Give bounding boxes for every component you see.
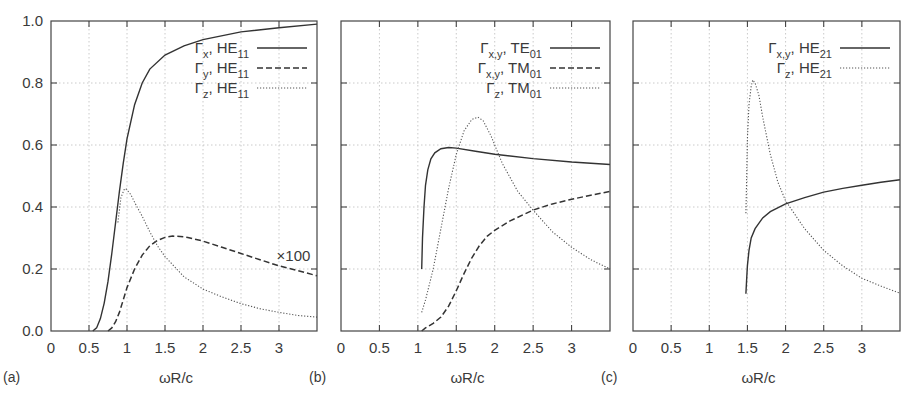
annotation-scale-factor: ×100 [277,247,311,264]
plot-frame [633,21,900,331]
y-tick-label: 0.6 [22,136,43,153]
x-tick-label: 1 [705,339,713,356]
y-tick-label: 0.8 [22,74,43,91]
x-tick-label: 2.5 [231,339,252,356]
x-tick-label: 1.5 [737,339,758,356]
panel-label: (b) [309,369,326,385]
panel-a: 00.511.522.530.00.20.40.60.81.0(a)ωR/cΓx… [3,12,317,386]
series-line-dotted [746,80,900,293]
y-tick-label: 0.4 [22,198,43,215]
x-tick-label: 2.5 [523,339,544,356]
x-tick-label: 1.5 [155,339,176,356]
x-tick-label: 0 [629,339,637,356]
figure: 00.511.522.530.00.20.40.60.81.0(a)ωR/cΓx… [0,0,914,396]
x-tick-label: 0.5 [79,339,100,356]
x-tick-label: 3 [858,339,866,356]
series-line-solid [422,148,610,270]
x-tick-label: 2.5 [813,339,834,356]
x-axis-label: ωR/c [450,369,485,386]
x-tick-label: 3 [275,339,283,356]
panel-b: 00.511.522.53(b)ωR/cΓx,y, TE01Γx,y, TM01… [309,21,610,386]
x-tick-label: 0.5 [369,339,390,356]
series-line-dotted [422,117,610,312]
x-tick-label: 1.5 [446,339,467,356]
panel-label: (a) [3,369,20,385]
y-tick-label: 1.0 [22,12,43,29]
panel-c: 00.511.522.53(c)ωR/cΓx,y, HE21Γz, HE21 [601,21,900,386]
legend-entry: Γx,y, HE21 [768,39,832,60]
y-tick-label: 0.2 [22,260,43,277]
x-tick-label: 1 [123,339,131,356]
x-axis-label: ωR/c [159,369,194,386]
x-tick-label: 2 [781,339,789,356]
x-tick-label: 0 [337,339,345,356]
panel-label: (c) [601,369,617,385]
series-line-solid [746,180,900,294]
x-tick-label: 2 [199,339,207,356]
series-line-dashed [422,192,610,332]
x-axis-label: ωR/c [741,369,776,386]
y-tick-label: 0.0 [22,322,43,339]
legend-entry: Γx,y, TE01 [480,39,542,60]
legend-entry: Γx,y, TM01 [478,59,542,80]
x-tick-label: 1 [414,339,422,356]
x-tick-label: 2 [491,339,499,356]
x-tick-label: 0 [47,339,55,356]
x-tick-label: 0.5 [661,339,682,356]
x-tick-label: 3 [567,339,575,356]
